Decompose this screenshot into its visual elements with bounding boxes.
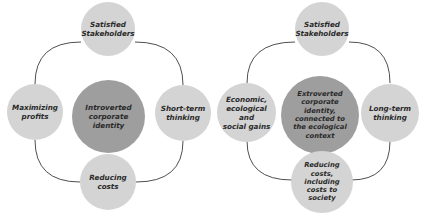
node-satisfied-stakeholders: Satisfied Stakeholders [295, 2, 349, 56]
node-label: Economic, ecological and social gains [221, 95, 272, 131]
node-label: Reducing costs, including costs to socie… [304, 161, 339, 202]
node-introverted-identity: Introverted corporate identity [72, 80, 145, 153]
node-extroverted-identity: Extroverted corporate identity, connecte… [281, 76, 359, 154]
node-label: Satisfied Stakeholders [295, 20, 348, 38]
introverted-identity-diagram: Satisfied Stakeholders Maximizing profit… [0, 0, 214, 215]
node-label: Maximizing profits [12, 103, 58, 121]
node-label: Satisfied Stakeholders [81, 20, 134, 38]
node-short-term-thinking: Short-term thinking [155, 85, 211, 141]
node-long-term-thinking: Long-term thinking [361, 84, 419, 142]
extroverted-identity-diagram: Satisfied Stakeholders Economic, ecologi… [214, 0, 428, 215]
node-label: Short-term thinking [161, 104, 206, 122]
node-label: Reducing costs [89, 173, 126, 191]
node-reducing-costs-society: Reducing costs, including costs to socie… [291, 151, 353, 213]
node-label: Long-term thinking [369, 104, 411, 122]
node-reducing-costs: Reducing costs [80, 154, 136, 210]
node-economic-ecological-social-gains: Economic, ecological and social gains [217, 83, 276, 142]
node-satisfied-stakeholders: Satisfied Stakeholders [81, 2, 135, 56]
node-label: Introverted corporate identity [85, 103, 131, 130]
node-maximizing-profits: Maximizing profits [7, 84, 63, 140]
node-label: Extroverted corporate identity, connecte… [293, 90, 347, 140]
